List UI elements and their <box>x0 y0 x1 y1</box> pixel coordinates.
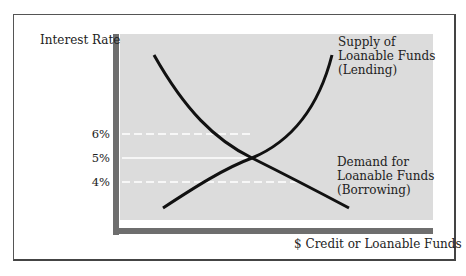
demand-label-line3: (Borrowing) <box>337 183 434 197</box>
demand-label-line2: Loanable Funds <box>337 169 434 183</box>
tick-label-5pct: 5% <box>80 152 110 164</box>
supply-label-line3: (Lending) <box>338 63 435 77</box>
x-axis-label: $ Credit or Loanable Funds <box>294 237 462 251</box>
demand-label-line1: Demand for <box>337 155 434 169</box>
tick-label-6pct: 6% <box>80 128 110 140</box>
supply-label-line1: Supply of <box>338 35 435 49</box>
tick-label-4pct: 4% <box>80 176 110 188</box>
supply-label-line2: Loanable Funds <box>338 49 435 63</box>
demand-label: Demand for Loanable Funds (Borrowing) <box>337 155 434 197</box>
y-axis-label: Interest Rate <box>40 33 120 47</box>
demand-curve <box>154 55 349 208</box>
supply-label: Supply of Loanable Funds (Lending) <box>338 35 435 77</box>
